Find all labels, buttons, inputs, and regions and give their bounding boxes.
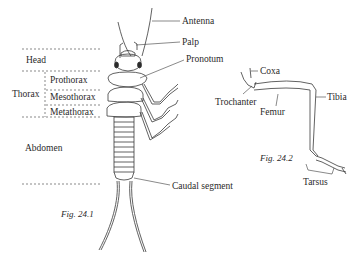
region-abdomen: Abdomen: [25, 143, 62, 153]
label-trochanter: Trochanter: [215, 97, 256, 107]
insect-abdomen: [114, 117, 134, 180]
label-antenna: Antenna: [182, 16, 214, 26]
label-pronotum: Pronotum: [186, 54, 223, 64]
insect-head: [115, 51, 142, 72]
label-tarsus: Tarsus: [303, 177, 328, 187]
figure-caption-24-1: Fig. 24.1: [61, 209, 94, 219]
insect-thorax: [107, 72, 147, 117]
insect-cerci: [99, 181, 146, 252]
label-palp: Palp: [182, 37, 199, 47]
region-metathorax: Metathorax: [50, 107, 94, 117]
insect-legs: [140, 84, 178, 140]
label-caudal-segment: Caudal segment: [172, 181, 233, 191]
insect-diagram: [0, 0, 359, 267]
region-prothorax: Prothorax: [50, 75, 87, 85]
label-tibia: Tibia: [327, 92, 347, 102]
region-head: Head: [26, 55, 46, 65]
detached-leg: [241, 68, 346, 174]
label-femur: Femur: [260, 107, 285, 117]
label-coxa: Coxa: [260, 66, 280, 76]
region-mesothorax: Mesothorax: [50, 92, 95, 102]
region-thorax: Thorax: [12, 89, 39, 99]
antennae: [118, 8, 152, 56]
figure-caption-24-2: Fig. 24.2: [260, 153, 293, 163]
